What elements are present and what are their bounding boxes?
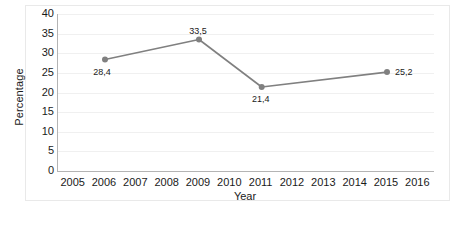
line-series [58, 14, 434, 171]
data-point-label: 25,2 [395, 68, 413, 77]
data-point-marker [259, 84, 265, 90]
y-axis-tick-labels: 4035302520151050 [30, 14, 54, 171]
plot-area [57, 14, 434, 172]
x-axis-tick-labels: 2005200620072008200920102011201220132014… [57, 176, 433, 190]
data-point-marker [384, 69, 390, 75]
x-tick-label: 2016 [397, 176, 437, 188]
y-tick-label: 15 [30, 106, 54, 117]
y-tick-label: 25 [30, 67, 54, 78]
chart-figure: Percentage 4035302520151050 28,433,521,4… [0, 0, 460, 226]
y-tick-label: 10 [30, 126, 54, 137]
data-point-marker [196, 37, 202, 43]
data-point-label: 21,4 [252, 95, 270, 104]
series-line [105, 40, 387, 88]
y-tick-label: 35 [30, 28, 54, 39]
y-tick-label: 30 [30, 47, 54, 58]
x-axis-title: Year [57, 190, 433, 202]
y-tick-label: 40 [30, 8, 54, 19]
y-axis-title: Percentage [13, 47, 25, 147]
data-point-label: 28,4 [93, 68, 111, 77]
y-tick-label: 0 [30, 165, 54, 176]
data-point-label: 33,5 [189, 27, 207, 36]
data-point-marker [102, 57, 108, 63]
y-tick-label: 5 [30, 145, 54, 156]
y-tick-label: 20 [30, 87, 54, 98]
